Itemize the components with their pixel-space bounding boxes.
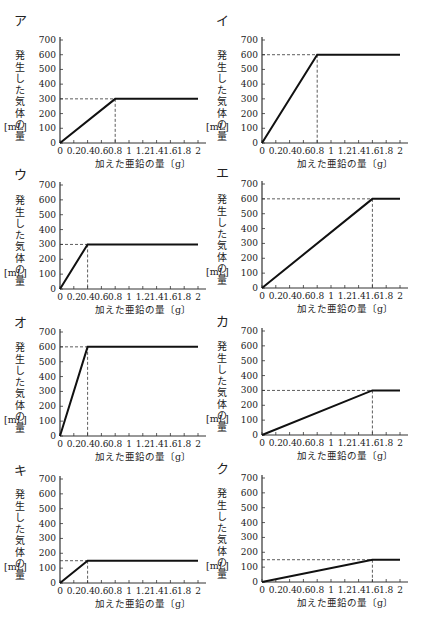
x-tick-label: 1.4 — [351, 585, 366, 595]
y-tick-label: 300 — [241, 532, 258, 542]
x-tick-label: 2 — [397, 585, 403, 595]
x-tick-label: 0.6 — [296, 585, 311, 595]
x-tick-label: 0 — [259, 585, 265, 595]
y-tick-label: 600 — [241, 488, 258, 498]
x-tick-label: 1 — [328, 585, 334, 595]
chart-plot: 010020030040050060070000.20.40.60.811.21… — [0, 0, 427, 630]
x-tick-label: 0.2 — [269, 585, 283, 595]
y-tick-label: 200 — [241, 547, 258, 557]
x-tick-label: 1.2 — [338, 585, 352, 595]
y-tick-label: 400 — [241, 518, 258, 528]
x-tick-label: 0.4 — [282, 585, 297, 595]
y-tick-label: 0 — [252, 577, 258, 587]
y-tick-label: 100 — [241, 562, 258, 572]
x-tick-label: 0.8 — [310, 585, 325, 595]
data-series-line — [262, 560, 400, 582]
x-tick-label: 1.6 — [365, 585, 380, 595]
y-tick-label: 700 — [241, 473, 258, 483]
x-tick-label: 1.8 — [379, 585, 394, 595]
y-tick-label: 500 — [241, 503, 258, 513]
